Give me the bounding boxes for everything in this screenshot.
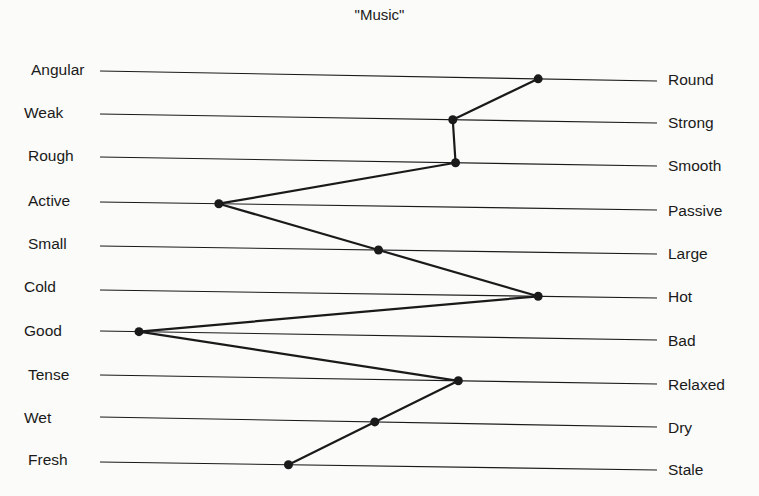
data-point bbox=[370, 417, 379, 426]
scale-left-label: Rough bbox=[28, 147, 74, 165]
scale-right-label: Round bbox=[668, 71, 714, 89]
scale-right-label: Dry bbox=[668, 419, 692, 437]
scale-left-label: Angular bbox=[31, 61, 84, 79]
scale-right-label: Hot bbox=[668, 288, 692, 306]
scale-right-label: Passive bbox=[668, 202, 722, 220]
scale-right-label: Smooth bbox=[668, 157, 721, 175]
scale-right-label: Stale bbox=[668, 461, 703, 479]
data-point bbox=[454, 376, 463, 385]
plot-area bbox=[0, 0, 759, 496]
profile-line bbox=[139, 79, 538, 465]
scale-left-label: Tense bbox=[28, 366, 69, 384]
scale-line bbox=[100, 375, 657, 384]
scale-line bbox=[100, 462, 657, 470]
data-point bbox=[284, 460, 293, 469]
scale-right-label: Large bbox=[668, 245, 708, 263]
data-point bbox=[374, 246, 383, 255]
scale-line bbox=[100, 71, 657, 81]
data-point bbox=[451, 158, 460, 167]
scale-line bbox=[100, 114, 657, 123]
scale-line bbox=[100, 202, 657, 210]
scale-left-label: Active bbox=[28, 192, 70, 210]
semantic-differential-chart: "Music" AngularRoundWeakStrongRoughSmoot… bbox=[0, 0, 759, 496]
scale-right-label: Bad bbox=[668, 332, 696, 350]
data-point bbox=[134, 327, 143, 336]
scale-left-label: Wet bbox=[24, 409, 51, 427]
scale-line bbox=[100, 157, 657, 166]
scale-left-label: Cold bbox=[24, 278, 56, 296]
data-point bbox=[534, 292, 543, 301]
data-point bbox=[214, 199, 223, 208]
scale-right-label: Strong bbox=[668, 114, 714, 132]
scale-left-label: Small bbox=[28, 235, 67, 253]
scale-left-label: Weak bbox=[24, 104, 63, 122]
scale-left-label: Fresh bbox=[28, 451, 68, 469]
data-point bbox=[534, 74, 543, 83]
scale-line bbox=[100, 290, 657, 298]
scale-left-label: Good bbox=[24, 322, 62, 340]
data-point bbox=[448, 115, 457, 124]
scale-right-label: Relaxed bbox=[668, 376, 725, 394]
